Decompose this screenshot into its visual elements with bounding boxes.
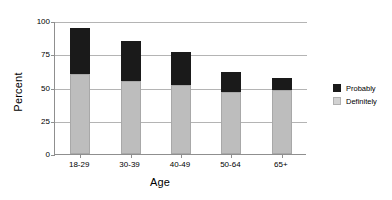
bar-segment-probably[interactable] <box>171 52 191 85</box>
legend-item[interactable]: Probably <box>333 83 391 93</box>
y-axis-tick <box>51 55 55 56</box>
bar-segment-probably[interactable] <box>272 78 292 90</box>
x-axis-tick-label: 65+ <box>256 160 306 169</box>
plot-area <box>54 22 306 155</box>
bar-segment-probably[interactable] <box>70 28 90 75</box>
x-axis-tick-label: 40-49 <box>155 160 205 169</box>
legend-label: Probably <box>346 84 376 93</box>
y-axis-tick-label: 0 <box>14 151 50 159</box>
legend-swatch-probably <box>333 84 341 92</box>
x-axis-tick <box>181 154 182 158</box>
x-axis-tick <box>131 154 132 158</box>
bar-segment-probably[interactable] <box>221 72 241 92</box>
gridline <box>55 22 307 23</box>
legend-item[interactable]: Definitely <box>333 96 391 106</box>
y-axis-tick <box>51 122 55 123</box>
y-axis-tick-label-text: 50 <box>16 85 50 93</box>
x-axis-title: Age <box>0 176 320 188</box>
x-axis-tick-label: 18-29 <box>54 160 104 169</box>
bar-segment-definitely[interactable] <box>221 92 241 155</box>
y-axis-tick-label: 100 <box>14 18 50 26</box>
y-axis-tick-label: 50 <box>14 85 50 93</box>
y-axis-tick-label: 25 <box>14 118 50 126</box>
chart-legend: ProbablyDefinitely <box>333 83 391 109</box>
y-axis-tick <box>51 89 55 90</box>
chart-container: Percent 0255075100 18-2930-3940-4950-646… <box>0 0 392 200</box>
x-axis-tick-label: 50-64 <box>205 160 255 169</box>
y-axis-tick <box>51 155 55 156</box>
x-axis-tick <box>282 154 283 158</box>
y-axis-tick <box>51 22 55 23</box>
legend-label: Definitely <box>346 97 377 106</box>
y-axis-tick-label-text: 25 <box>16 118 50 126</box>
y-axis-tick-label-text: 75 <box>16 51 50 59</box>
legend-swatch-definitely <box>333 97 341 105</box>
y-axis-tick-label: 75 <box>14 51 50 59</box>
y-axis-tick-label-text: 100 <box>16 18 50 26</box>
x-axis-tick-label: 30-39 <box>105 160 155 169</box>
bar-segment-definitely[interactable] <box>70 74 90 154</box>
bar-segment-definitely[interactable] <box>272 90 292 154</box>
bar-segment-definitely[interactable] <box>171 85 191 154</box>
y-axis-tick-label-text: 0 <box>16 151 50 159</box>
bar-segment-definitely[interactable] <box>121 81 141 154</box>
x-axis-tick <box>80 154 81 158</box>
bar-segment-probably[interactable] <box>121 41 141 81</box>
x-axis-tick <box>231 154 232 158</box>
